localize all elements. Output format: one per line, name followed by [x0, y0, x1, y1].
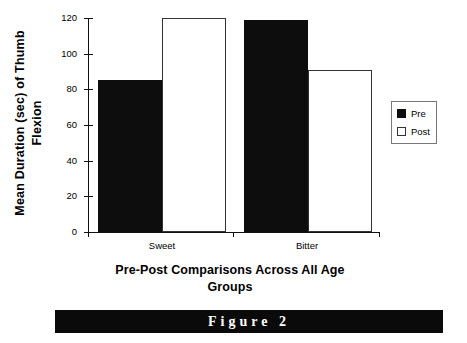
- y-tick-120: 120: [84, 18, 93, 19]
- x-axis-title-line1: Pre-Post Comparisons Across All Age: [58, 262, 402, 279]
- y-tick-60: 60: [84, 125, 93, 126]
- x-category-label-sweet: Sweet: [149, 240, 175, 251]
- y-axis-title: Mean Duration (sec) of Thumb Flexion: [0, 0, 58, 245]
- legend: Pre Post: [391, 101, 437, 144]
- y-axis-title-line2: Flexion: [29, 30, 46, 215]
- legend-swatch-pre-icon: [397, 109, 406, 118]
- plot-area: 0 20 40 60 80 100 120 Sweet Bitt: [88, 18, 378, 232]
- y-tick-40: 40: [84, 161, 93, 162]
- bar-sweet-pre: [98, 80, 162, 232]
- y-axis-title-line1: Mean Duration (sec) of Thumb: [12, 30, 29, 215]
- legend-item-post: Post: [397, 124, 430, 139]
- legend-label-post: Post: [411, 127, 430, 137]
- y-tick-label-0: 0: [72, 227, 77, 237]
- y-tick-label-120: 120: [61, 13, 77, 23]
- bar-bitter-pre: [244, 20, 308, 232]
- x-category-label-bitter: Bitter: [296, 240, 318, 251]
- y-tick-label-100: 100: [61, 49, 77, 59]
- bar-sweet-post: [162, 18, 226, 232]
- x-axis-line: [88, 232, 380, 233]
- legend-swatch-post-icon: [397, 127, 406, 136]
- x-tick-left: [88, 232, 89, 237]
- y-tick-100: 100: [84, 54, 93, 55]
- y-tick-80: 80: [84, 89, 93, 90]
- x-tick-middle: [233, 232, 234, 237]
- x-axis-title: Pre-Post Comparisons Across All Age Grou…: [58, 262, 402, 296]
- y-tick-label-80: 80: [66, 85, 77, 95]
- legend-item-pre: Pre: [397, 106, 430, 121]
- x-tick-right: [379, 232, 380, 237]
- y-tick-label-40: 40: [66, 156, 77, 166]
- legend-label-pre: Pre: [411, 109, 426, 119]
- figure-container: Mean Duration (sec) of Thumb Flexion 0 2…: [0, 0, 467, 343]
- y-tick-label-60: 60: [66, 120, 77, 130]
- figure-caption-text: Figure 2: [208, 314, 290, 330]
- x-axis-title-line2: Groups: [58, 279, 402, 296]
- bar-bitter-post: [308, 70, 372, 232]
- y-tick-20: 20: [84, 196, 93, 197]
- y-tick-label-20: 20: [66, 192, 77, 202]
- figure-caption-bar: Figure 2: [55, 310, 443, 333]
